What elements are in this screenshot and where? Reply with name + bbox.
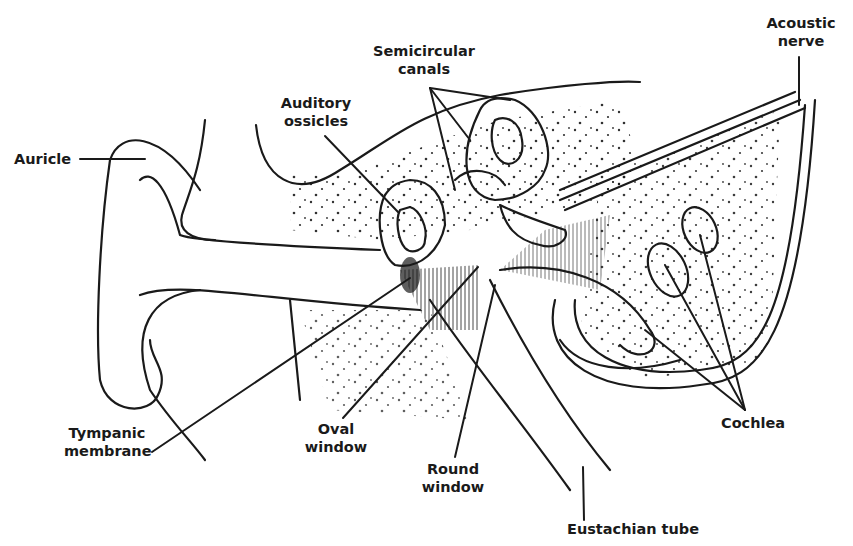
label-eustachian-tube: Eustachian tube [567, 520, 699, 538]
label-round-window: Round window [420, 460, 486, 496]
label-auditory-ossicles: Auditory ossicles [280, 94, 352, 130]
label-cochlea: Cochlea [721, 414, 785, 432]
eustachian-leader [583, 467, 584, 520]
label-tympanic-membrane: Tympanic membrane [64, 424, 150, 460]
auricle-shape [98, 140, 200, 408]
label-oval-window: Oval window [302, 420, 370, 456]
label-semicircular-canals: Semicircular canals [372, 42, 476, 78]
ear-diagram: Auricle Auditory ossicles Semicircular c… [0, 0, 853, 546]
canals-leader-3 [430, 88, 510, 100]
label-auricle: Auricle [14, 150, 71, 168]
label-acoustic-nerve: Acoustic nerve [766, 14, 836, 50]
